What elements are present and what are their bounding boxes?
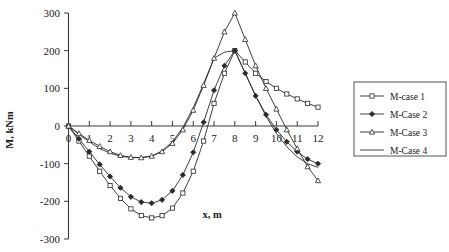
x-tick-label: 0 — [66, 132, 72, 144]
y-tick-label: 300 — [44, 7, 61, 19]
data-point-marker — [107, 149, 112, 154]
data-point-marker — [150, 216, 154, 220]
data-point-marker — [253, 93, 258, 98]
data-point-marker — [211, 88, 216, 93]
data-point-marker — [139, 199, 144, 204]
data-point-marker — [149, 201, 154, 206]
data-point-marker — [118, 196, 122, 200]
x-tick-label: 9 — [253, 132, 259, 144]
data-point-marker — [284, 127, 289, 132]
data-point-marker — [170, 206, 174, 210]
data-point-marker — [201, 120, 206, 125]
data-point-marker — [211, 56, 216, 61]
data-point-marker — [274, 86, 278, 90]
data-point-marker — [370, 94, 374, 98]
data-point-marker — [129, 207, 133, 211]
x-tick-label: 6 — [191, 132, 197, 144]
legend-label: M-Case 3 — [390, 128, 427, 138]
x-axis-ticks — [69, 121, 319, 126]
data-point-marker — [232, 10, 237, 15]
data-point-marker — [108, 183, 112, 187]
data-point-marker — [222, 29, 227, 34]
series-markers — [66, 10, 321, 220]
y-axis-tick-labels: 3002001000-100-200-300 — [40, 7, 61, 245]
data-point-marker — [295, 97, 299, 101]
data-point-marker — [180, 172, 185, 177]
y-tick-label: -100 — [40, 158, 61, 170]
data-point-marker — [316, 105, 320, 109]
plot-area: 3002001000-100-200-300 0123456789101112 … — [0, 0, 449, 252]
y-tick-label: 200 — [44, 45, 61, 57]
data-point-marker — [315, 161, 320, 166]
x-tick-label: 2 — [107, 132, 113, 144]
data-point-marker — [254, 71, 258, 75]
x-tick-label: 8 — [232, 132, 238, 144]
legend: M-case 1M-Case 2M-Case 3M-Case 4 — [354, 82, 446, 156]
data-point-marker — [274, 106, 279, 111]
legend-label: M-Case 4 — [390, 146, 427, 156]
y-tick-label: -300 — [40, 233, 61, 245]
data-point-marker — [263, 86, 268, 91]
data-point-marker — [222, 71, 226, 75]
data-point-marker — [264, 79, 268, 83]
legend-label: M-case 1 — [390, 92, 425, 102]
chart-figure: 3002001000-100-200-300 0123456789101112 … — [0, 0, 449, 252]
x-tick-label: 7 — [211, 132, 217, 144]
data-point-marker — [222, 63, 227, 68]
data-point-marker — [139, 214, 143, 218]
data-point-marker — [202, 139, 206, 143]
data-point-marker — [285, 92, 289, 96]
data-point-marker — [295, 146, 300, 151]
y-tick-label: 100 — [44, 82, 61, 94]
data-point-marker — [98, 169, 102, 173]
data-point-marker — [191, 169, 195, 173]
data-point-marker — [212, 101, 216, 105]
data-point-marker — [243, 37, 248, 42]
y-tick-label: 0 — [55, 120, 61, 132]
series-markers-group — [66, 10, 321, 182]
series-lines — [69, 13, 319, 218]
y-tick-label: -200 — [40, 195, 61, 207]
y-axis-title: M, kNm — [4, 111, 15, 149]
legend-label: M-Case 2 — [390, 110, 427, 120]
data-point-marker — [243, 60, 247, 64]
data-point-marker — [306, 101, 310, 105]
data-point-marker — [201, 83, 206, 88]
data-point-marker — [97, 144, 102, 149]
data-point-marker — [191, 107, 196, 112]
x-tick-label: 3 — [128, 132, 134, 144]
data-point-marker — [149, 153, 154, 158]
data-point-marker — [181, 191, 185, 195]
data-point-marker — [253, 63, 258, 68]
data-point-marker — [160, 214, 164, 218]
data-point-marker — [191, 150, 196, 155]
x-axis-title: x, m — [202, 209, 222, 220]
x-tick-label: 12 — [313, 132, 324, 144]
data-point-marker — [243, 71, 248, 76]
series-markers-group — [66, 48, 321, 206]
x-tick-label: 4 — [149, 132, 155, 144]
